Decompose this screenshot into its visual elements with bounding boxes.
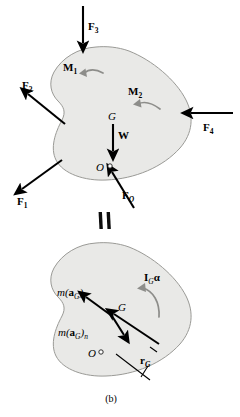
bottom-diagram: m(aG)t m(aG)n rG G O [51,243,191,380]
force-W-label: W [118,129,129,141]
figure-caption: (b) [105,393,117,405]
point-O-marker-top [108,164,112,168]
point-G-label-bottom: G [118,301,126,313]
force-F4: F4 [191,113,233,136]
force-F1-label: F1 [17,195,28,210]
force-F2-label: F2 [22,79,33,94]
equals-symbol [99,212,111,229]
point-O-label-bottom: O [88,347,96,359]
force-F3: F3 [83,6,99,43]
point-O-label-top: O [96,161,104,173]
top-diagram: F3 F2 F1 F4 FO [17,6,233,210]
force-F3-label: F3 [88,20,99,35]
force-F4-label: F4 [203,121,214,136]
mechanics-figure: F3 F2 F1 F4 FO [0,0,240,417]
point-O-marker-bottom [99,350,103,354]
point-G-label-top: G [108,110,116,122]
force-F1: F1 [17,160,62,210]
force-FO-label: FO [122,189,135,204]
